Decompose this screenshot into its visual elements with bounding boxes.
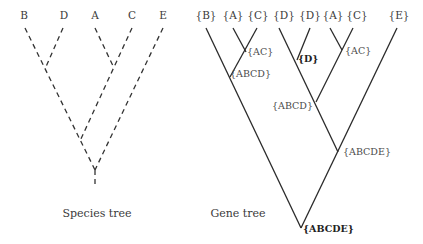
gene-leaf-c1: {C} (247, 9, 268, 21)
gene-leaf-e: {E} (388, 9, 409, 21)
gene-node-abcde-inner: {ABCDE} (343, 146, 391, 157)
gene-node-abcd-mid: {ABCD} (272, 100, 313, 111)
gene-leaf-a2: {A} (323, 9, 344, 21)
species-tree-caption: Species tree (62, 207, 131, 220)
gene-leaf-b: {B} (195, 9, 216, 21)
species-tree-branches (25, 28, 163, 184)
species-leaf-d: D (60, 9, 68, 21)
species-leaf-e: E (159, 9, 167, 21)
species-leaf-a: A (91, 9, 99, 21)
gene-node-abcd-left: {ABCD} (230, 68, 271, 79)
gene-node-ac-right: {AC} (345, 45, 371, 56)
gene-leaf-c2: {C} (346, 9, 367, 21)
gene-tree-caption: Gene tree (210, 207, 265, 220)
gene-node-abcde-root: {ABCDE} (303, 223, 354, 234)
species-leaf-c: C (128, 9, 136, 21)
gene-leaf-d1: {D} (273, 9, 295, 21)
gene-node-ac-left: {AC} (247, 46, 273, 57)
gene-node-d-mid: {D} (298, 53, 318, 64)
species-leaf-b: B (20, 9, 28, 21)
gene-leaf-d2: {D} (299, 9, 321, 21)
gene-leaf-a1: {A} (223, 9, 244, 21)
